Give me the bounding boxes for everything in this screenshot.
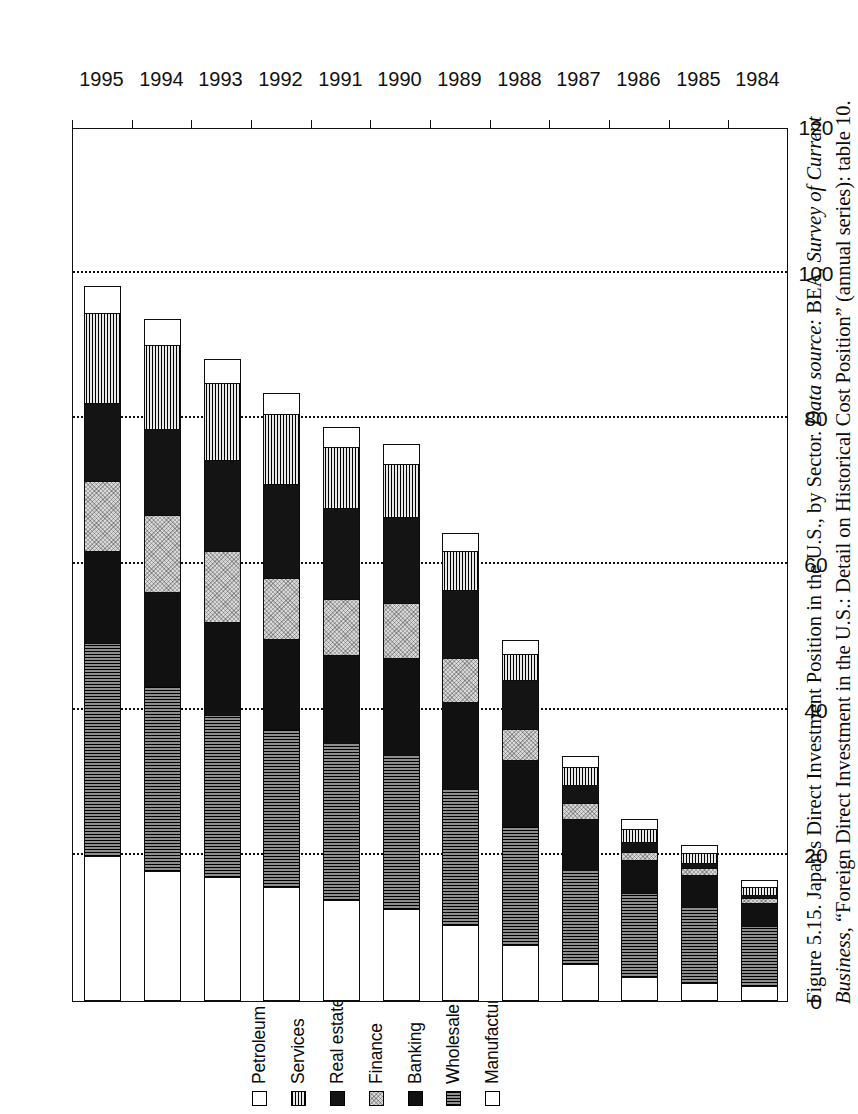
segment-wholesale-1993[interactable]: [205, 715, 240, 876]
segment-banking-1992[interactable]: [264, 639, 299, 729]
segment-realestate-1990[interactable]: [384, 517, 419, 603]
stacked-bar-1989[interactable]: [442, 533, 479, 1001]
segment-petroleum-1991[interactable]: [324, 428, 359, 447]
segment-finance-1992[interactable]: [264, 578, 299, 639]
segment-realestate-1984[interactable]: [742, 895, 777, 898]
segment-banking-1994[interactable]: [145, 592, 180, 686]
segment-manufacturing-1990[interactable]: [384, 909, 419, 1000]
segment-petroleum-1986[interactable]: [622, 820, 657, 829]
segment-wholesale-1995[interactable]: [85, 643, 120, 857]
stacked-bar-1991[interactable]: [323, 427, 360, 1001]
segment-realestate-1988[interactable]: [503, 680, 538, 729]
segment-realestate-1992[interactable]: [264, 484, 299, 578]
segment-banking-1987[interactable]: [563, 819, 598, 870]
segment-banking-1995[interactable]: [85, 551, 120, 643]
segment-petroleum-1990[interactable]: [384, 445, 419, 464]
stacked-bar-1992[interactable]: [263, 393, 300, 1001]
segment-petroleum-1993[interactable]: [205, 360, 240, 383]
segment-manufacturing-1995[interactable]: [85, 856, 120, 1000]
segment-finance-1993[interactable]: [205, 551, 240, 622]
segment-wholesale-1994[interactable]: [145, 686, 180, 870]
segment-finance-1995[interactable]: [85, 481, 120, 551]
segment-wholesale-1989[interactable]: [443, 789, 478, 925]
segment-petroleum-1985[interactable]: [682, 846, 717, 853]
segment-services-1984[interactable]: [742, 887, 777, 896]
segment-finance-1985[interactable]: [682, 868, 717, 875]
segment-manufacturing-1984[interactable]: [742, 986, 777, 1000]
stacked-bar-1988[interactable]: [502, 640, 539, 1001]
segment-manufacturing-1991[interactable]: [324, 900, 359, 1000]
segment-services-1995[interactable]: [85, 313, 120, 403]
stacked-bar-1986[interactable]: [621, 819, 658, 1001]
segment-banking-1991[interactable]: [324, 655, 359, 744]
segment-services-1994[interactable]: [145, 345, 180, 429]
segment-wholesale-1987[interactable]: [563, 870, 598, 964]
segment-finance-1986[interactable]: [622, 852, 657, 861]
segment-finance-1988[interactable]: [503, 729, 538, 759]
category-tick-1988: [490, 120, 491, 128]
segment-realestate-1994[interactable]: [145, 429, 180, 515]
segment-realestate-1993[interactable]: [205, 460, 240, 551]
segment-finance-1990[interactable]: [384, 603, 419, 658]
segment-wholesale-1985[interactable]: [682, 907, 717, 983]
segment-wholesale-1992[interactable]: [264, 729, 299, 887]
source-label: Data source:: [803, 319, 825, 426]
segment-realestate-1991[interactable]: [324, 508, 359, 599]
segment-finance-1989[interactable]: [443, 658, 478, 702]
segment-services-1985[interactable]: [682, 853, 717, 863]
segment-manufacturing-1985[interactable]: [682, 983, 717, 1000]
segment-services-1993[interactable]: [205, 383, 240, 460]
segment-finance-1987[interactable]: [563, 804, 598, 820]
segment-manufacturing-1989[interactable]: [443, 925, 478, 1000]
stacked-bar-1994[interactable]: [144, 319, 181, 1001]
segment-finance-1984[interactable]: [742, 898, 777, 902]
segment-services-1988[interactable]: [503, 654, 538, 680]
segment-wholesale-1988[interactable]: [503, 826, 538, 945]
legend-label: Banking: [406, 1022, 425, 1084]
segment-petroleum-1989[interactable]: [443, 534, 478, 551]
segment-banking-1993[interactable]: [205, 622, 240, 715]
segment-banking-1988[interactable]: [503, 760, 538, 827]
segment-services-1990[interactable]: [384, 464, 419, 518]
segment-services-1991[interactable]: [324, 447, 359, 508]
stacked-bar-1984[interactable]: [741, 880, 778, 1001]
segment-manufacturing-1987[interactable]: [563, 964, 598, 1000]
segment-wholesale-1984[interactable]: [742, 926, 777, 986]
segment-banking-1989[interactable]: [443, 702, 478, 789]
segment-realestate-1985[interactable]: [682, 863, 717, 867]
segment-wholesale-1990[interactable]: [384, 755, 419, 909]
segment-wholesale-1986[interactable]: [622, 893, 657, 977]
segment-manufacturing-1986[interactable]: [622, 977, 657, 1000]
segment-realestate-1987[interactable]: [563, 785, 598, 804]
segment-services-1986[interactable]: [622, 829, 657, 842]
stacked-bar-1985[interactable]: [681, 845, 718, 1001]
segment-petroleum-1994[interactable]: [145, 320, 180, 345]
segment-manufacturing-1994[interactable]: [145, 871, 180, 1000]
segment-petroleum-1987[interactable]: [563, 757, 598, 767]
segment-realestate-1986[interactable]: [622, 842, 657, 852]
segment-realestate-1989[interactable]: [443, 590, 478, 658]
stacked-bar-1993[interactable]: [204, 359, 241, 1001]
segment-finance-1991[interactable]: [324, 599, 359, 654]
segment-finance-1994[interactable]: [145, 515, 180, 592]
bar-row-1995: [84, 129, 121, 1001]
segment-services-1987[interactable]: [563, 767, 598, 784]
segment-banking-1986[interactable]: [622, 860, 657, 893]
stacked-bar-1990[interactable]: [383, 444, 420, 1001]
segment-banking-1984[interactable]: [742, 903, 777, 926]
segment-manufacturing-1993[interactable]: [205, 877, 240, 1000]
segment-banking-1985[interactable]: [682, 875, 717, 907]
segment-manufacturing-1988[interactable]: [503, 945, 538, 1000]
segment-realestate-1995[interactable]: [85, 403, 120, 481]
segment-petroleum-1995[interactable]: [85, 287, 120, 313]
segment-petroleum-1992[interactable]: [264, 394, 299, 414]
segment-wholesale-1991[interactable]: [324, 743, 359, 900]
segment-manufacturing-1992[interactable]: [264, 887, 299, 1000]
segment-banking-1990[interactable]: [384, 658, 419, 755]
segment-services-1992[interactable]: [264, 414, 299, 484]
segment-petroleum-1984[interactable]: [742, 881, 777, 887]
stacked-bar-1987[interactable]: [562, 756, 599, 1001]
segment-services-1989[interactable]: [443, 551, 478, 590]
segment-petroleum-1988[interactable]: [503, 641, 538, 654]
stacked-bar-1995[interactable]: [84, 286, 121, 1001]
